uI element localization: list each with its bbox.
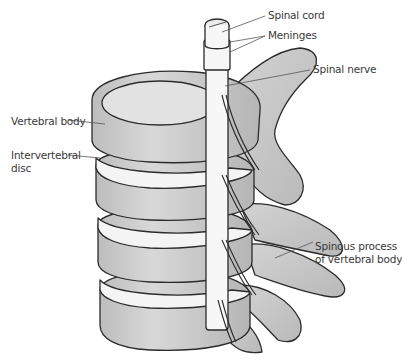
vertebral-top-surface	[102, 81, 218, 125]
label-vertebral-body: Vertebral body	[11, 115, 86, 128]
label-intervertebral-disc-line1: Intervertebral	[11, 149, 81, 162]
label-spinous-process-line1: Spinous process	[315, 240, 402, 253]
label-spinal-nerve: Spinal nerve	[313, 63, 376, 76]
label-intervertebral-disc-line2: disc	[11, 162, 81, 175]
label-spinal-cord: Spinal cord	[268, 9, 324, 22]
label-spinous-process: Spinous process of vertebral body	[315, 240, 402, 265]
label-intervertebral-disc: Intervertebral disc	[11, 149, 81, 174]
label-spinous-process-line2: of vertebral body	[315, 253, 402, 266]
label-meninges: Meninges	[268, 29, 317, 42]
spinal-cord	[204, 19, 230, 330]
